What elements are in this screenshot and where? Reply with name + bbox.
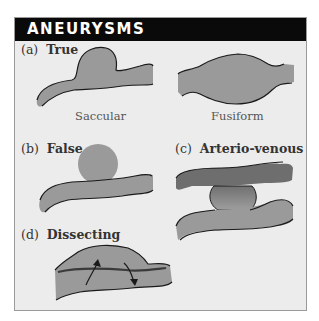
arteriovenous-aneurysm-illustration (176, 162, 293, 240)
section-d-letter: (d) (21, 227, 39, 242)
fusiform-aneurysm-illustration (178, 54, 294, 104)
saccular-caption: Saccular (75, 109, 126, 123)
section-c-letter: (c) (175, 141, 192, 156)
section-b-label: (b) False (21, 141, 83, 156)
section-a-letter: (a) (21, 42, 38, 57)
section-d-title: Dissecting (47, 227, 121, 242)
section-c-title: Arterio-venous (200, 141, 304, 156)
section-b-title: False (47, 141, 83, 156)
section-a-label: (a) True (21, 42, 78, 57)
section-d-label: (d) Dissecting (21, 227, 120, 242)
section-a-title: True (46, 42, 78, 57)
section-b-letter: (b) (21, 141, 39, 156)
fusiform-caption: Fusiform (211, 109, 264, 123)
dissecting-aneurysm-illustration (55, 245, 172, 300)
section-c-label: (c) Arterio-venous (175, 141, 303, 156)
